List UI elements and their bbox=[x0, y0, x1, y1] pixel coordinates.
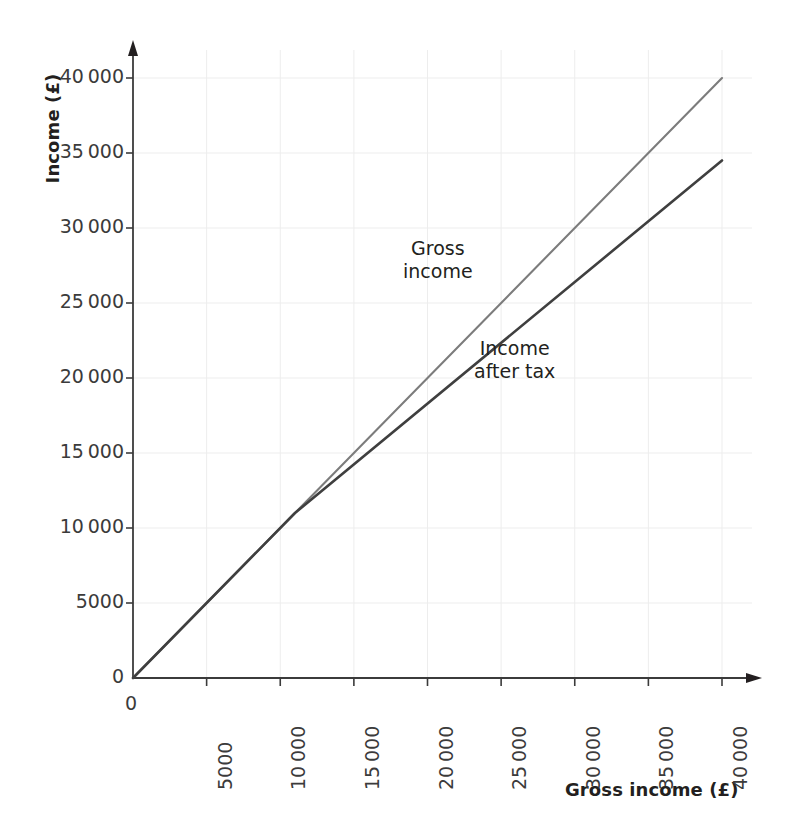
x-tick-label: 10 000 bbox=[287, 726, 309, 790]
x-tick-label: 25 000 bbox=[508, 726, 530, 790]
x-tick-label: 15 000 bbox=[361, 726, 383, 790]
y-tick-label: 30 000 bbox=[14, 215, 124, 237]
x-tick-label: 20 000 bbox=[435, 726, 457, 790]
y-tick-label: 40 000 bbox=[14, 65, 124, 87]
x-tick-label: 0 bbox=[125, 692, 137, 714]
y-tick-label: 10 000 bbox=[14, 515, 124, 537]
y-axis-arrowhead bbox=[128, 40, 138, 56]
annotation-gross-income-line2: income bbox=[403, 260, 473, 283]
x-axis-arrowhead bbox=[746, 673, 762, 683]
annotation-income-after-tax-line2: after tax bbox=[474, 360, 555, 383]
y-tick-label: 25 000 bbox=[14, 290, 124, 312]
vertical-gridlines bbox=[207, 50, 722, 678]
y-axis-tick-marks bbox=[126, 78, 133, 603]
annotation-income-after-tax-line1: Income bbox=[474, 337, 555, 360]
x-tick-label: 40 000 bbox=[729, 726, 751, 790]
x-tick-label: 35 000 bbox=[655, 726, 677, 790]
annotation-income-after-tax: Income after tax bbox=[474, 337, 555, 383]
y-tick-label: 20 000 bbox=[14, 365, 124, 387]
y-tick-label: 15 000 bbox=[14, 440, 124, 462]
annotation-gross-income: Gross income bbox=[403, 237, 473, 283]
y-tick-label: 5000 bbox=[14, 590, 124, 612]
x-tick-label: 30 000 bbox=[582, 726, 604, 790]
annotation-gross-income-line1: Gross bbox=[403, 237, 473, 260]
chart-figure: Income (£) Gross income (£) 0500010 0001… bbox=[0, 0, 789, 836]
horizontal-gridlines bbox=[133, 78, 752, 603]
x-axis-tick-marks bbox=[207, 678, 722, 686]
y-tick-label: 0 bbox=[14, 665, 124, 687]
x-tick-label: 5000 bbox=[214, 742, 236, 790]
y-tick-label: 35 000 bbox=[14, 140, 124, 162]
chart-plot-area bbox=[0, 0, 789, 836]
